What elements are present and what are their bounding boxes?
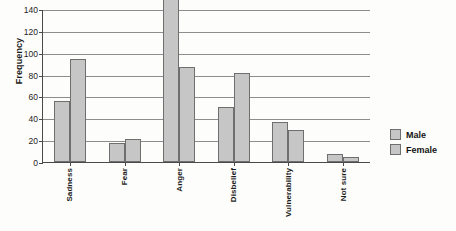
y-axis-tick-label: 100 (12, 49, 43, 59)
bar-group (316, 10, 371, 162)
y-axis-tick-label: 140 (12, 5, 43, 15)
bar-group (43, 10, 98, 162)
y-axis-tick-label: 40 (12, 114, 43, 124)
x-axis-label-vulnerability: Vulnerability (284, 168, 293, 217)
bar-female-vulnerability (288, 130, 304, 162)
x-axis-label-fear: Fear (120, 168, 129, 185)
legend-item-male[interactable]: Male (390, 129, 437, 140)
bar-male-disbelief (218, 107, 234, 162)
bar-chart: Frequency 020406080100120140 SadnessFear… (0, 0, 456, 231)
bar-female-anger (179, 67, 195, 162)
bar-male-vulnerability (272, 122, 288, 162)
bar-male-not-sure (327, 154, 343, 162)
x-axis-tickmark (179, 162, 180, 166)
bar-group (207, 10, 262, 162)
x-axis-label-disbelief: Disbelief (229, 168, 238, 202)
bar-male-sadness (54, 101, 70, 162)
x-axis-label-cell: Disbelief (206, 168, 261, 226)
bar-groups (43, 10, 370, 162)
y-axis-tick-label: 60 (12, 92, 43, 102)
x-axis-label-anger: Anger (174, 168, 183, 192)
bar-female-fear (125, 139, 141, 162)
x-axis-label-cell: Anger (151, 168, 206, 226)
legend-swatch-icon (390, 144, 401, 155)
legend: MaleFemale (390, 129, 437, 155)
legend-label: Male (406, 130, 426, 140)
x-axis-label-cell: Sadness (42, 168, 97, 226)
x-axis-label-not-sure: Not sure (338, 168, 347, 201)
y-axis-tick-label: 20 (12, 136, 43, 146)
y-axis-tick-label: 80 (12, 71, 43, 81)
bar-group (98, 10, 153, 162)
legend-label: Female (406, 145, 437, 155)
bar-female-sadness (70, 59, 86, 162)
bar-female-not-sure (343, 157, 359, 162)
x-axis-tickmark (125, 162, 126, 166)
x-axis-tickmark (343, 162, 344, 166)
x-axis-label-cell: Vulnerability (261, 168, 316, 226)
bar-male-fear (109, 143, 125, 162)
x-axis-tickmark (70, 162, 71, 166)
y-axis-tick-label: 120 (12, 27, 43, 37)
bar-group (261, 10, 316, 162)
x-axis-label-sadness: Sadness (65, 168, 74, 202)
bar-male-anger (163, 0, 179, 162)
x-axis-label-cell: Not sure (315, 168, 370, 226)
y-axis-tick-label: 0 (12, 158, 43, 168)
x-axis-label-cell: Fear (97, 168, 152, 226)
bar-group (152, 10, 207, 162)
bar-female-disbelief (234, 73, 250, 162)
x-axis-tickmark (288, 162, 289, 166)
x-axis-tickmark (234, 162, 235, 166)
legend-swatch-icon (390, 129, 401, 140)
plot-area: 020406080100120140 (42, 10, 370, 163)
x-axis-labels: SadnessFearAngerDisbeliefVulnerabilityNo… (42, 168, 370, 226)
legend-item-female[interactable]: Female (390, 144, 437, 155)
